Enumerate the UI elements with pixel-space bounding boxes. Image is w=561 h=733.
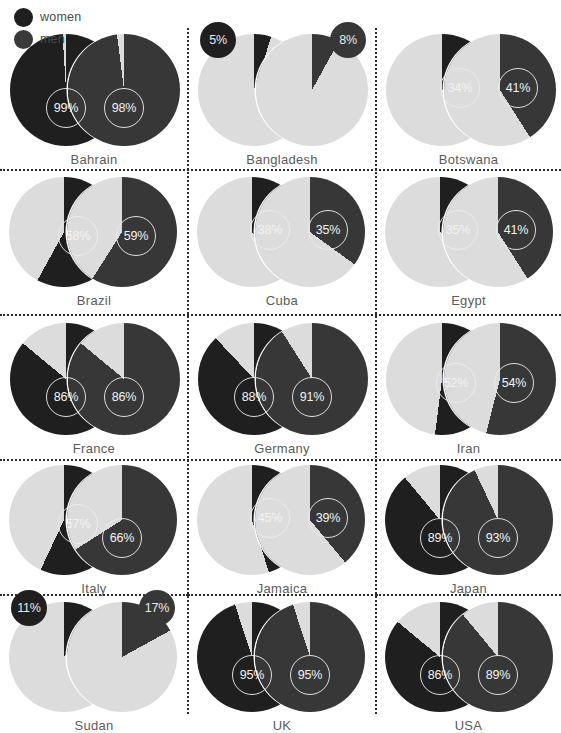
- pie-pair: 11%17%: [0, 595, 188, 724]
- value-label-men: 35%: [308, 210, 348, 250]
- country-cell-sudan: 11%17%Sudan: [0, 595, 188, 724]
- row-divider: [0, 459, 561, 461]
- country-cell-usa: 86%89%USA: [376, 595, 561, 724]
- country-label: Germany: [188, 441, 376, 456]
- country-label: France: [0, 441, 188, 456]
- column-divider: [375, 28, 377, 714]
- value-label-men: 93%: [478, 518, 518, 558]
- value-label-women: 45%: [250, 498, 290, 538]
- value-label-women: 89%: [420, 518, 460, 558]
- country-label: USA: [376, 718, 561, 733]
- value-label-men: 54%: [494, 363, 534, 403]
- country-label: Cuba: [188, 293, 376, 308]
- value-label-men: 41%: [498, 68, 538, 108]
- value-label-women: 58%: [58, 216, 98, 256]
- country-cell-bangladesh: 5%8%Bangladesh: [188, 24, 376, 170]
- country-label: Brazil: [0, 293, 188, 308]
- value-label-women: 57%: [58, 504, 98, 544]
- country-label: UK: [188, 718, 376, 733]
- country-label: Bangladesh: [188, 152, 376, 167]
- country-label: Sudan: [0, 718, 188, 733]
- country-label: Iran: [376, 441, 561, 456]
- value-label-women: 52%: [436, 363, 476, 403]
- value-label-men: 86%: [104, 377, 144, 417]
- pie-pair: 86%86%: [0, 315, 188, 460]
- country-label: Egypt: [376, 293, 561, 308]
- country-cell-italy: 57%66%Italy: [0, 460, 188, 595]
- value-label-men: 98%: [104, 88, 144, 128]
- country-cell-germany: 88%91%Germany: [188, 315, 376, 460]
- value-label-women: 95%: [232, 655, 272, 695]
- pie-pair: 88%91%: [188, 315, 376, 460]
- pie-pair: 57%66%: [0, 460, 188, 595]
- country-cell-jamaica: 45%39%Jamaica: [188, 460, 376, 595]
- pie-pair: 86%89%: [376, 595, 561, 724]
- value-badge-men: 17%: [139, 590, 175, 626]
- value-label-men: 41%: [496, 210, 536, 250]
- country-label: Bahrain: [0, 152, 188, 167]
- legend-item-men: men: [14, 30, 81, 49]
- country-cell-cuba: 38%35%Cuba: [188, 170, 376, 315]
- country-cell-iran: 52%54%Iran: [376, 315, 561, 460]
- country-cell-uk: 95%95%UK: [188, 595, 376, 724]
- value-label-men: 66%: [102, 518, 142, 558]
- column-divider: [187, 28, 189, 714]
- pie-pair: 34%41%: [376, 24, 561, 170]
- row-divider-segment: [376, 594, 561, 596]
- value-label-men: 39%: [308, 498, 348, 538]
- value-label-men: 91%: [292, 377, 332, 417]
- country-cell-japan: 89%93%Japan: [376, 460, 561, 595]
- country-cell-botswana: 34%41%Botswana: [376, 24, 561, 170]
- country-label: Botswana: [376, 152, 561, 167]
- value-label-men: 59%: [116, 216, 156, 256]
- value-badge-women: 5%: [200, 22, 236, 58]
- country-cell-france: 86%86%France: [0, 315, 188, 460]
- value-label-women: 34%: [440, 68, 480, 108]
- value-label-men: 95%: [290, 655, 330, 695]
- legend-label-women: women: [40, 8, 81, 27]
- value-badge-men: 8%: [330, 22, 366, 58]
- value-badge-women: 11%: [11, 590, 47, 626]
- row-divider: [0, 169, 561, 171]
- pie-pair: 89%93%: [376, 460, 561, 595]
- value-label-women: 86%: [46, 377, 86, 417]
- legend: women men: [14, 8, 81, 49]
- row-divider: [0, 314, 561, 316]
- pie-pair: 5%8%: [188, 24, 376, 170]
- pie-pair: 95%95%: [188, 595, 376, 724]
- country-cell-brazil: 58%59%Brazil: [0, 170, 188, 315]
- pie-pair: 45%39%: [188, 460, 376, 595]
- value-label-men: 89%: [478, 655, 518, 695]
- value-label-women: 38%: [250, 210, 290, 250]
- value-label-women: 35%: [438, 210, 478, 250]
- circle-swatch-men-icon: [14, 30, 33, 49]
- legend-label-men: men: [40, 30, 65, 49]
- value-label-women: 86%: [420, 655, 460, 695]
- pie-pair: 52%54%: [376, 315, 561, 460]
- country-cell-egypt: 35%41%Egypt: [376, 170, 561, 315]
- circle-swatch-women-icon: [14, 8, 33, 27]
- legend-item-women: women: [14, 8, 81, 27]
- value-label-women: 88%: [234, 377, 274, 417]
- value-label-women: 99%: [46, 88, 86, 128]
